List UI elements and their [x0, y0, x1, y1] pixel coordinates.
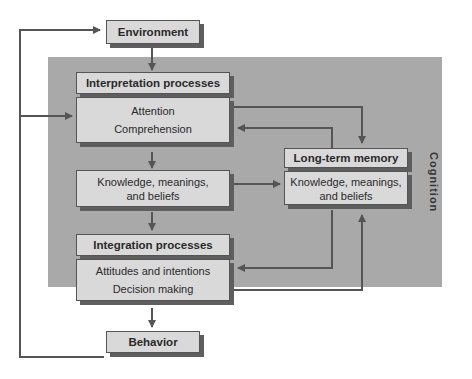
ltm-header: Long-term memory [284, 148, 408, 168]
interpretation-body: Attention Comprehension [76, 97, 230, 143]
environment-label: Environment [107, 25, 199, 39]
integration-header: Integration processes [76, 234, 230, 256]
environment-node: Environment [106, 20, 200, 44]
cognition-label: Cognition [420, 152, 440, 212]
interpretation-header: Interpretation processes [76, 72, 230, 94]
integration-body: Attitudes and intentions Decision making [76, 259, 230, 301]
knowledge-node: Knowledge, meanings, and beliefs [76, 170, 230, 207]
behavior-node: Behavior [106, 331, 200, 353]
ltm-body: Knowledge, meanings, and beliefs [284, 171, 408, 205]
